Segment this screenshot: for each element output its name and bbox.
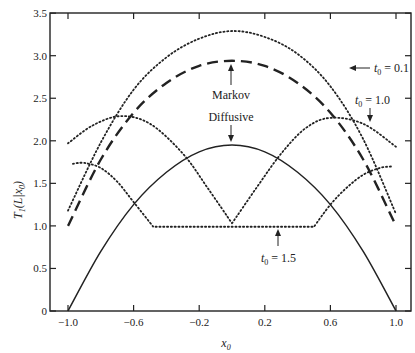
series-diffusive xyxy=(68,145,396,311)
arrowhead-icon xyxy=(367,115,373,122)
x-tick-label: 0.2 xyxy=(258,316,272,328)
plot-border xyxy=(50,13,411,311)
arrowhead-icon xyxy=(228,64,234,71)
y-tick-label: 1.5 xyxy=(33,177,47,189)
series-markov xyxy=(68,61,396,226)
y-tick-label: 3.0 xyxy=(33,50,47,62)
plot-frame xyxy=(50,13,411,311)
annotation-label: t0 = 0.1 xyxy=(374,61,409,77)
x-tick-label: −0.2 xyxy=(189,316,209,328)
series-t0-1-5 xyxy=(73,163,393,227)
arrowhead-icon xyxy=(228,135,234,142)
annotation-t0-1.5: t0 = 1.5 xyxy=(261,229,296,267)
y-tick-label: 3.5 xyxy=(33,7,47,19)
y-tick-label: 2.5 xyxy=(33,92,47,104)
annotation-label: t0 = 1.5 xyxy=(261,251,296,267)
annotation-label: Markov xyxy=(212,88,250,102)
y-axis-title: T1(L|x0) xyxy=(11,181,27,219)
series-layer xyxy=(68,31,396,311)
y-tick-label: 2.0 xyxy=(33,135,47,147)
annotation-t0-0.1: t0 = 0.1 xyxy=(349,61,409,77)
arrowhead-icon xyxy=(275,229,281,236)
y-tick-label: 1.0 xyxy=(33,220,47,232)
annotation-diffusive: Diffusive xyxy=(208,110,253,142)
x-tick-label: 0.6 xyxy=(324,316,338,328)
x-tick-label: 1.0 xyxy=(389,316,403,328)
x-axis-title: x0 xyxy=(220,336,230,352)
chart: −1.0−0.6−0.20.20.61.0 00.51.01.52.02.53.… xyxy=(0,0,415,353)
y-tick-label: 0.5 xyxy=(33,262,47,274)
annotation-label: Diffusive xyxy=(208,110,253,124)
annotation-label: t0 = 1.0 xyxy=(355,93,390,109)
arrowhead-icon xyxy=(349,65,356,71)
annotation-t0-1.0: t0 = 1.0 xyxy=(355,93,390,122)
y-tick-label: 0 xyxy=(42,305,48,317)
x-tick-label: −1.0 xyxy=(58,316,78,328)
annotation-markov: Markov xyxy=(212,64,250,102)
x-tick-label: −0.6 xyxy=(124,316,144,328)
